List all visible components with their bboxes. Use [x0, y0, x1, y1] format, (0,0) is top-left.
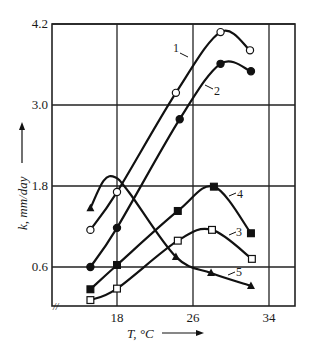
chart: 1826340.61.83.04.2 1 2 3 4 5 // T, °C k,…	[0, 0, 313, 354]
y-tick-label: 4.2	[32, 16, 48, 31]
marker-square	[211, 183, 218, 190]
y-tick-label: 0.6	[32, 259, 49, 274]
marker-circle	[217, 60, 224, 67]
marker-circle	[87, 226, 94, 233]
x-axis-arrowhead	[196, 330, 204, 336]
marker-circle	[247, 68, 254, 75]
y-axis-arrowhead	[19, 122, 25, 130]
series-label-3: 3	[236, 225, 242, 239]
marker-circle	[176, 116, 183, 123]
y-tick-label: 1.8	[32, 178, 48, 193]
y-axis-label: k, mm/day	[15, 176, 30, 230]
series-label-4: 4	[237, 187, 243, 201]
marker-circle	[113, 188, 120, 195]
marker-square	[174, 208, 181, 215]
marker-circle	[217, 28, 224, 35]
marker-square	[114, 262, 121, 269]
marker-circle	[87, 263, 94, 270]
x-axis-label: T, °C	[127, 326, 154, 341]
y-tick-label: 3.0	[32, 97, 48, 112]
marker-square	[87, 286, 94, 293]
series-label-2: 2	[214, 84, 220, 98]
curve-2	[90, 61, 251, 267]
marker-circle	[246, 47, 253, 54]
marker-square	[174, 237, 181, 244]
marker-square	[249, 256, 256, 263]
x-tick-label: 26	[187, 310, 201, 325]
marker-triangle	[86, 204, 94, 212]
series-label-5: 5	[236, 265, 242, 279]
x-tick-label: 18	[111, 310, 124, 325]
curves	[90, 31, 252, 300]
marker-circle	[113, 224, 120, 231]
marker-circle	[172, 89, 179, 96]
markers	[86, 28, 255, 303]
marker-square	[248, 230, 255, 237]
x-tick-label: 34	[263, 310, 277, 325]
marker-square	[114, 285, 121, 292]
marker-square	[87, 297, 94, 304]
series-label-1: 1	[173, 41, 179, 55]
marker-square	[209, 226, 216, 233]
